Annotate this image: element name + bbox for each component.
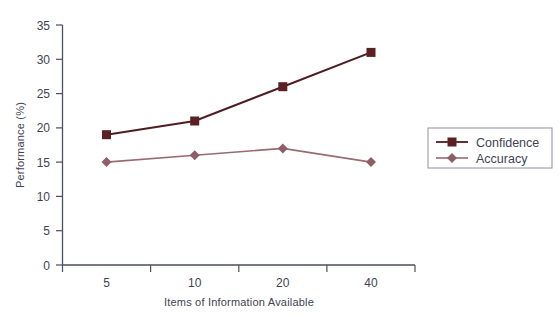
x-tick-label: 10: [188, 276, 202, 290]
y-tick-label: 30: [37, 53, 51, 67]
chart-legend: Confidence Accuracy: [428, 128, 552, 168]
y-tick-label: 25: [37, 87, 51, 101]
y-tick-label: 0: [43, 259, 50, 273]
y-tick-label: 35: [37, 19, 51, 33]
x-axis-title: Items of Information Available: [164, 296, 314, 308]
x-tick-label: 5: [103, 276, 110, 290]
y-tick-label: 20: [37, 121, 51, 135]
legend-label-accuracy: Accuracy: [476, 152, 528, 166]
y-tick-label: 10: [37, 190, 51, 204]
y-tick-label: 5: [43, 224, 50, 238]
legend-marker-confidence: [448, 138, 457, 147]
legend-label-confidence: Confidence: [476, 136, 539, 150]
y-tick-label: 15: [37, 156, 51, 170]
performance-line-chart: 35 30 25 20 15 10 5 0 5 10 20 40 Items o…: [0, 0, 560, 321]
y-axis-title: Performance (%): [14, 102, 26, 188]
x-tick-label: 20: [276, 276, 290, 290]
x-tick-label: 40: [364, 276, 378, 290]
